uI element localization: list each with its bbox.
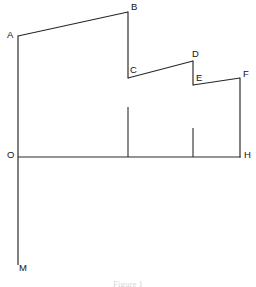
figure-svg-canvas: [0, 0, 256, 287]
vertex-label-c: C: [130, 65, 137, 75]
figure-diagram: A B C D E F H O M Figure 1: [0, 0, 256, 287]
figure-caption: Figure 1: [0, 280, 256, 287]
vertex-label-f: F: [243, 69, 249, 79]
vertex-label-b: B: [131, 2, 137, 12]
segment-ab: [18, 12, 128, 36]
vertex-label-o: O: [7, 150, 15, 160]
vertex-label-a: A: [7, 30, 13, 40]
vertex-label-e: E: [196, 73, 202, 83]
segment-cd: [128, 61, 193, 78]
vertex-label-h: H: [244, 150, 251, 160]
vertex-label-m: M: [19, 263, 27, 273]
vertex-label-d: D: [192, 49, 199, 59]
